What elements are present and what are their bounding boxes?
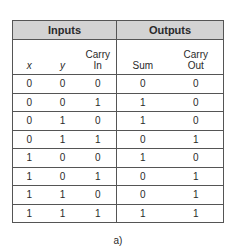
cell-x: 0 xyxy=(13,93,46,112)
cell-sum: 0 xyxy=(117,186,169,205)
table-row: 10010 xyxy=(13,149,224,168)
cell-sum: 0 xyxy=(117,75,169,94)
cell-y: 0 xyxy=(46,167,80,186)
cell-y: 0 xyxy=(46,93,80,112)
cell-x: 0 xyxy=(13,75,46,94)
table-row: 00110 xyxy=(13,93,224,112)
cell-carry-in: 1 xyxy=(80,130,117,149)
cell-x: 1 xyxy=(13,149,46,168)
column-header-sum: Sum xyxy=(117,40,169,75)
cell-x: 1 xyxy=(13,204,46,223)
column-header-x: x xyxy=(13,40,46,75)
cell-y: 1 xyxy=(46,112,80,131)
cell-carry-out: 0 xyxy=(169,75,224,94)
table-row: 11111 xyxy=(13,204,224,223)
cell-x: 0 xyxy=(13,112,46,131)
inputs-group-header: Inputs xyxy=(13,21,117,40)
table-row: 00000 xyxy=(13,75,224,94)
cell-sum: 1 xyxy=(117,204,169,223)
outputs-group-header: Outputs xyxy=(117,21,224,40)
cell-carry-out: 0 xyxy=(169,93,224,112)
cell-carry-in: 0 xyxy=(80,149,117,168)
cell-carry-out: 0 xyxy=(169,112,224,131)
cell-carry-in: 1 xyxy=(80,93,117,112)
figure-caption: a) xyxy=(0,235,236,246)
table-row: 01101 xyxy=(13,130,224,149)
cell-carry-out: 1 xyxy=(169,204,224,223)
cell-y: 0 xyxy=(46,75,80,94)
cell-carry-out: 1 xyxy=(169,186,224,205)
cell-y: 0 xyxy=(46,149,80,168)
cell-carry-in: 0 xyxy=(80,186,117,205)
cell-x: 1 xyxy=(13,186,46,205)
cell-carry-out: 1 xyxy=(169,130,224,149)
cell-carry-out: 0 xyxy=(169,149,224,168)
cell-sum: 0 xyxy=(117,130,169,149)
cell-carry-in: 1 xyxy=(80,204,117,223)
cell-carry-in: 0 xyxy=(80,112,117,131)
table-row: 01010 xyxy=(13,112,224,131)
column-header-y: y xyxy=(46,40,80,75)
cell-y: 1 xyxy=(46,204,80,223)
cell-carry-in: 0 xyxy=(80,75,117,94)
column-header-carry-in: CarryIn xyxy=(80,40,117,75)
group-header-row: Inputs Outputs xyxy=(13,21,224,40)
cell-sum: 1 xyxy=(117,93,169,112)
cell-x: 0 xyxy=(13,130,46,149)
cell-carry-out: 1 xyxy=(169,167,224,186)
cell-y: 1 xyxy=(46,130,80,149)
cell-sum: 1 xyxy=(117,149,169,168)
column-header-row: x y CarryIn Sum CarryOut xyxy=(13,40,224,75)
cell-sum: 0 xyxy=(117,167,169,186)
cell-sum: 1 xyxy=(117,112,169,131)
table-row: 10101 xyxy=(13,167,224,186)
column-header-carry-out: CarryOut xyxy=(169,40,224,75)
table-row: 11001 xyxy=(13,186,224,205)
cell-carry-in: 1 xyxy=(80,167,117,186)
cell-y: 1 xyxy=(46,186,80,205)
cell-x: 1 xyxy=(13,167,46,186)
full-adder-truth-table: Inputs Outputs x y CarryIn Sum CarryOut … xyxy=(12,20,224,223)
